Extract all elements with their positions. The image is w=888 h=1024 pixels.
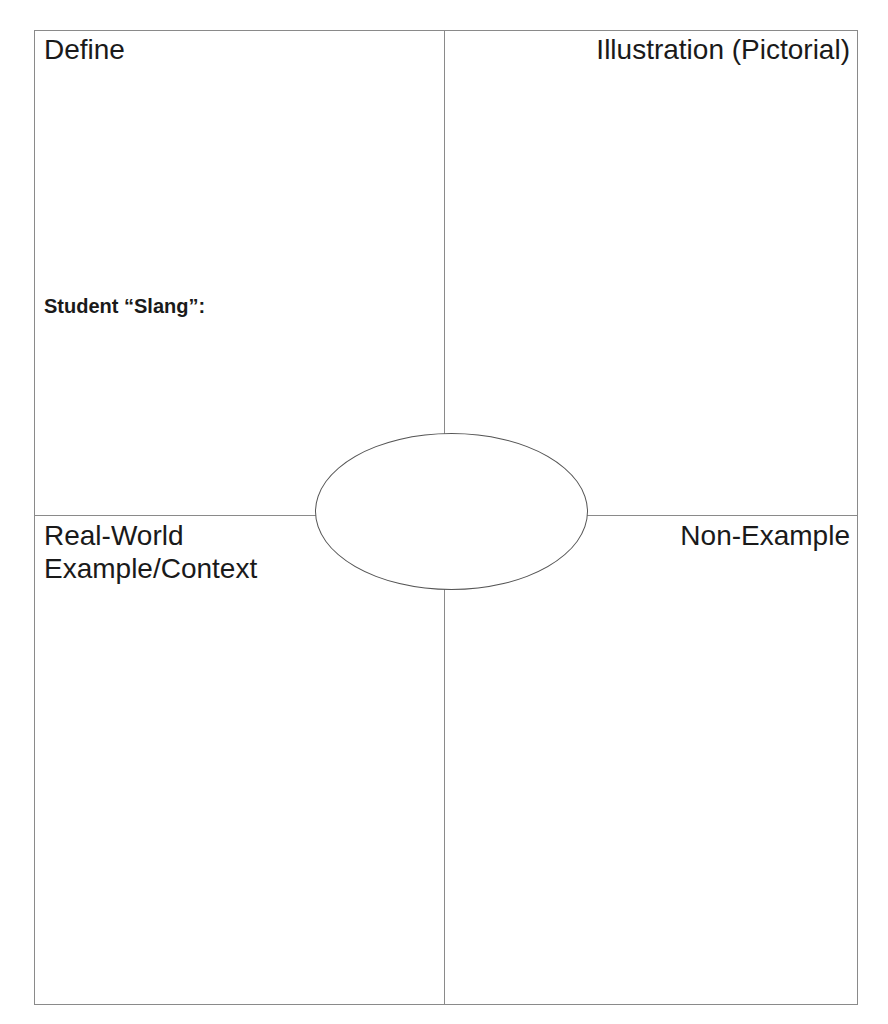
real-world-heading: Real-World Example/Context [44, 519, 257, 585]
center-term-oval[interactable] [315, 433, 588, 590]
non-example-heading: Non-Example [680, 519, 850, 552]
define-heading: Define [44, 33, 125, 66]
real-world-line2: Example/Context [44, 552, 257, 585]
real-world-line1: Real-World [44, 519, 257, 552]
illustration-heading: Illustration (Pictorial) [596, 33, 850, 66]
student-slang-label: Student “Slang”: [44, 295, 205, 318]
